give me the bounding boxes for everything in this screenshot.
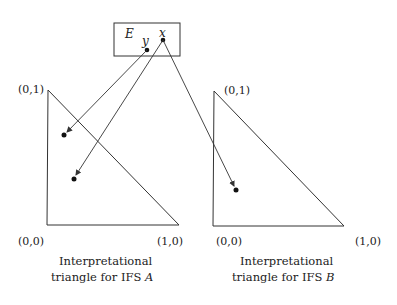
set-box: E y x (114, 23, 180, 56)
triangle-b-right-label: (1,0) (355, 235, 381, 248)
triangle-b: (0,1) (0,0) (1,0) Interpretational trian… (213, 84, 381, 284)
point-y-in-a (62, 133, 67, 138)
triangle-b-caption-line1: Interpretational (240, 254, 334, 268)
element-y-label: y (141, 34, 149, 48)
arrow-x-to-a (76, 40, 163, 175)
triangle-a: (0,1) (0,0) (1,0) Interpretational trian… (18, 83, 183, 284)
ifs-diagram: E y x (0,1) (0,0) (1,0) Interpretational… (0, 0, 397, 305)
set-label: E (124, 27, 134, 41)
point-x-in-b (234, 188, 239, 193)
arrow-x-to-b (163, 40, 234, 186)
triangle-b-top-label: (0,1) (224, 84, 250, 97)
triangle-b-caption-line2: triangle for IFS B (232, 270, 334, 284)
triangle-a-right-label: (1,0) (157, 235, 183, 248)
triangle-a-caption-line1: Interpretational (59, 254, 153, 268)
triangle-a-outline (47, 90, 179, 225)
arrow-y-to-a (67, 50, 147, 132)
point-x-in-a (72, 177, 77, 182)
triangle-b-outline (213, 91, 344, 226)
triangle-a-caption-line2: triangle for IFS A (51, 270, 153, 284)
triangle-a-top-label: (0,1) (18, 83, 44, 96)
mapping-arrows (67, 40, 234, 186)
triangle-b-origin-label: (0,0) (216, 235, 242, 248)
triangle-a-origin-label: (0,0) (18, 235, 44, 248)
